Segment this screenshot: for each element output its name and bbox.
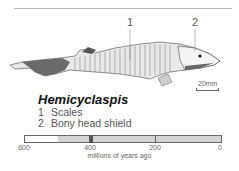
timeline-marker <box>89 135 93 143</box>
callout-2: 2 <box>192 17 198 28</box>
timeline-tick-200 <box>155 135 156 143</box>
callout-1: 1 <box>127 17 133 28</box>
legend: 1 Scales 2 Bony head shield <box>38 107 131 129</box>
legend-item-head-shield: 2 Bony head shield <box>38 118 131 129</box>
timeline-caption: millions of years ago <box>0 152 239 159</box>
geologic-timeline <box>24 135 222 143</box>
species-title: Hemicyclaspis <box>38 92 128 107</box>
scale-bar-label: 20mm <box>198 80 217 87</box>
timeline-range <box>58 136 221 142</box>
scale-bar <box>196 88 219 91</box>
